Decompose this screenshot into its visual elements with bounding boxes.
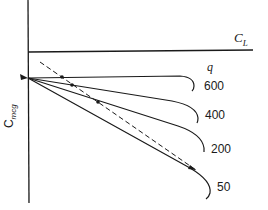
intersection-marker-400 (70, 83, 74, 87)
origin-arrow-icon (20, 74, 28, 80)
curve-q-600 (28, 76, 194, 91)
intersection-marker-600 (60, 75, 64, 79)
x-axis-label: CL (234, 30, 248, 48)
intersection-marker-200 (96, 100, 100, 104)
curve-label-600: 600 (204, 79, 224, 93)
curve-label-50: 50 (217, 180, 230, 194)
curve-label-400: 400 (205, 108, 225, 122)
parameter-label: q (207, 60, 213, 75)
dashed-locus-line (40, 62, 196, 170)
y-axis-label: Cmcg (2, 104, 18, 128)
diagram-canvas (0, 0, 268, 210)
intersection-arrow-50 (188, 165, 196, 170)
curve-label-200: 200 (211, 142, 231, 156)
curve-q-400 (28, 78, 198, 123)
y-axis (28, 0, 29, 203)
x-axis (28, 50, 253, 52)
curve-q-50 (28, 78, 210, 199)
